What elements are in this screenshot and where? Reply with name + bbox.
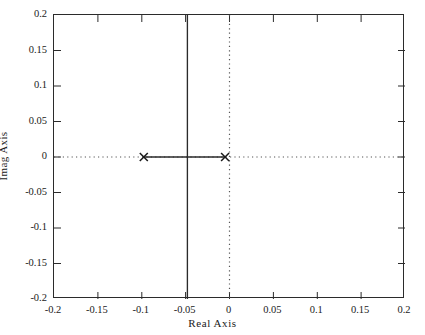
x-tick-label: -0.2 (45, 305, 62, 316)
x-tick-label: 0.05 (263, 305, 281, 316)
y-tick-label: -0.2 (14, 293, 47, 304)
y-tick-label: 0 (14, 151, 47, 162)
x-tick-label: -0.05 (174, 305, 196, 316)
y-tick-label: 0.1 (14, 80, 47, 91)
y-tick-label: 0.15 (14, 44, 47, 55)
y-tick-label: -0.05 (14, 186, 47, 197)
y-tick-label: -0.1 (14, 222, 47, 233)
x-tick-label: -0.15 (86, 305, 108, 316)
plot-canvas (54, 15, 405, 299)
y-tick-label: -0.15 (14, 257, 47, 268)
x-axis-title: Real Axis (0, 317, 425, 329)
y-axis-ticks-right (398, 51, 405, 264)
x-tick-label: 0.1 (310, 305, 323, 316)
y-tick-label: 0.2 (14, 9, 47, 20)
plot-area (53, 14, 404, 298)
x-tick-label: 0.2 (397, 305, 410, 316)
y-tick-label: 0.05 (14, 115, 47, 126)
y-axis-title: Imag Axis (0, 131, 9, 180)
root-locus-figure: Imag Axis 0.2 0.15 0.1 0.05 0 -0.05 -0.1… (0, 0, 425, 335)
x-tick-label: 0 (226, 305, 231, 316)
x-tick-label: -0.1 (132, 305, 149, 316)
x-tick-label: 0.15 (351, 305, 369, 316)
